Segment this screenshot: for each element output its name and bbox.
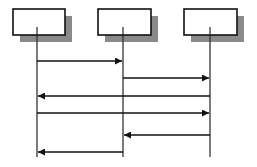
participant-box	[13, 9, 65, 35]
sequence-diagram	[0, 0, 257, 167]
participant-box	[98, 9, 151, 35]
participant-1	[13, 9, 72, 157]
